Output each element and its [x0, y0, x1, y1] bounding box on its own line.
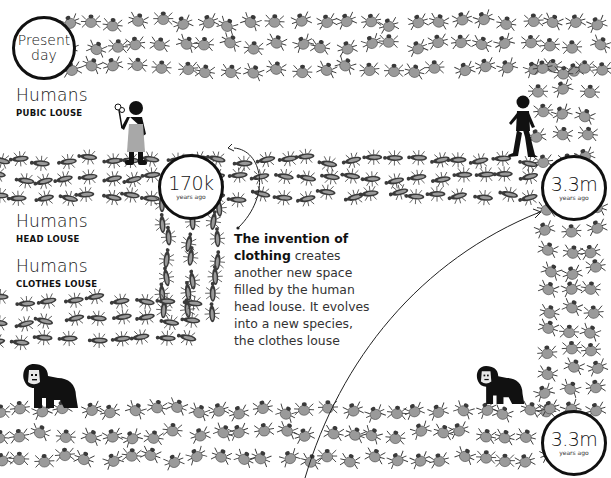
3.3m-marker-bottom: 3.3m years ago	[541, 410, 607, 476]
human-walking-icon	[505, 95, 541, 159]
gorilla-icon	[20, 362, 80, 410]
present-day-marker: Present day	[12, 16, 76, 80]
clothing-annotation: The invention of clothing creates anothe…	[234, 230, 374, 349]
label-clothes-louse: Humans CLOTHES LOUSE	[16, 258, 97, 289]
3.3m-marker-top: 3.3m years ago	[541, 155, 607, 221]
label-pubic-louse: Humans PUBIC LOUSE	[16, 87, 88, 118]
human-figure-icon	[112, 100, 154, 166]
170k-marker: 170k years ago	[158, 154, 224, 220]
label-head-louse: Humans HEAD LOUSE	[16, 213, 88, 244]
gorilla-icon-right	[474, 362, 526, 408]
